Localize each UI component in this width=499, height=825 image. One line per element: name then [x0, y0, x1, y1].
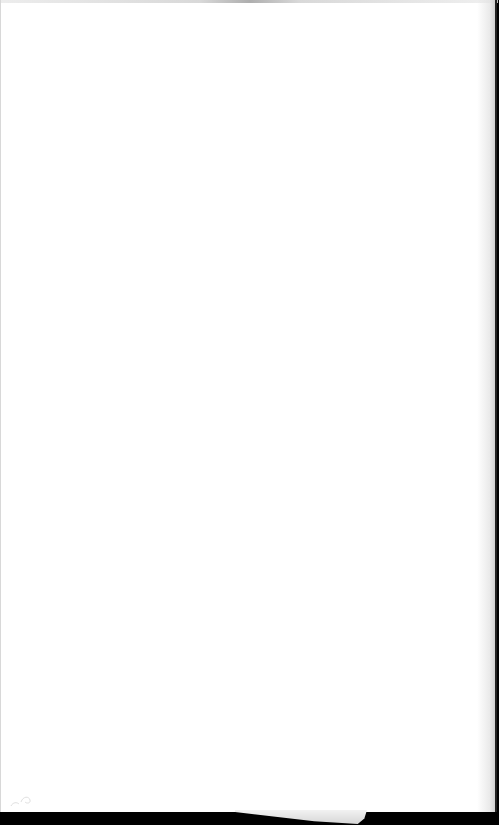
right-edge-shadow	[477, 0, 495, 812]
bottom-dark-strip	[0, 812, 499, 825]
blank-paper-sheet	[0, 0, 497, 812]
top-edge-shadow	[1, 0, 498, 3]
faint-corner-mark-icon	[7, 792, 33, 808]
photo-stage	[0, 0, 499, 825]
right-paper-edge	[495, 0, 497, 812]
